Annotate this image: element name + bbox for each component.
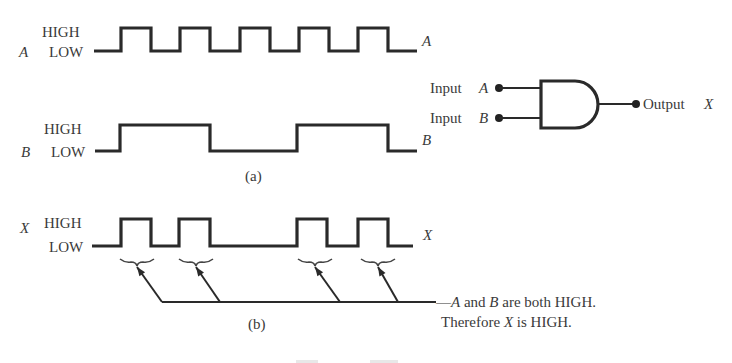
input-a-var: A [478, 80, 489, 96]
signal-a-waveform [94, 28, 417, 51]
signal-a-end-label: A [421, 33, 432, 49]
annotation-therefore: Therefore [441, 314, 504, 330]
annotation-line-2: Therefore X is HIGH. [441, 314, 572, 330]
annotation-end-2: is HIGH. [513, 314, 572, 330]
brace-icon [361, 259, 395, 266]
input-b-label: Input [430, 110, 462, 126]
part-a-label: (a) [245, 168, 262, 185]
signal-x-high-label: HIGH [44, 215, 82, 231]
signal-x-name: X [19, 220, 30, 236]
output-var: X [703, 96, 714, 112]
signal-a-name: A [18, 44, 29, 60]
signal-x-low-label: LOW [49, 239, 84, 255]
brace-icon [179, 259, 213, 266]
output-terminal-icon [632, 100, 640, 108]
signal-b-high-label: HIGH [44, 121, 82, 137]
signal-x-group: HIGH X LOW X [19, 215, 433, 255]
signal-a-low-label: LOW [49, 44, 84, 60]
annotation-line-1: —A and B are both HIGH. [435, 294, 596, 310]
arrowhead-icon [196, 267, 204, 276]
timing-diagram: HIGH A LOW A HIGH B LOW B (a) Input A In… [0, 0, 732, 363]
output-label: Output [643, 96, 686, 112]
signal-b-group: HIGH B LOW B [21, 121, 431, 160]
brace-icon [298, 259, 332, 266]
signal-b-name: B [21, 144, 30, 160]
annotation-var-b: B [489, 294, 498, 310]
input-b-var: B [479, 110, 488, 126]
input-a-label: Input [430, 80, 462, 96]
signal-b-end-label: B [422, 132, 431, 148]
annotation-dash: — [435, 294, 452, 310]
signal-x-waveform [92, 219, 413, 246]
brace-icon [120, 259, 154, 266]
signal-b-waveform [95, 125, 417, 151]
signal-a-group: HIGH A LOW A [18, 24, 432, 60]
arrowhead-icon [378, 267, 386, 277]
signal-x-end-label: X [422, 227, 433, 243]
and-gate-icon [541, 81, 598, 128]
annotation-and: and [460, 294, 489, 310]
high-interval-annotations [120, 259, 398, 302]
and-gate-symbol: Input A Input B Output X [430, 80, 714, 128]
signal-b-low-label: LOW [51, 144, 86, 160]
signal-a-high-label: HIGH [42, 24, 80, 40]
part-b-label: (b) [248, 316, 266, 333]
annotation-end-1: are both HIGH. [499, 294, 596, 310]
